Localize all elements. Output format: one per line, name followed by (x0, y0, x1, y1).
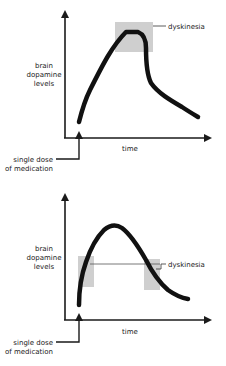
dyskinesia-label: dyskinesia (168, 23, 205, 31)
dose-pointer-line (56, 315, 79, 342)
y-axis-label-line3: levels (34, 80, 55, 88)
y-axis-label-line1: brain (35, 62, 53, 70)
bottom-panel: dyskinesia brain dopamine levels time si… (5, 195, 210, 356)
y-axis-label-line1: brain (35, 245, 53, 253)
dose-label-line2: of medication (5, 165, 53, 173)
dose-label-line1: single dose (13, 339, 53, 347)
dose-label-line2: of medication (5, 348, 53, 356)
y-axis-label-line2: dopamine (27, 71, 62, 79)
dose-label-line1: single dose (13, 156, 53, 164)
x-axis-label: time (122, 328, 138, 336)
top-panel: dyskinesia brain dopamine levels time si… (5, 12, 210, 173)
dyskinesia-label: dyskinesia (168, 261, 205, 269)
dose-pointer-line (56, 133, 79, 159)
diagram-canvas: dyskinesia brain dopamine levels time si… (0, 0, 226, 366)
y-axis-label-line3: levels (34, 263, 55, 271)
x-axis-label: time (122, 145, 138, 153)
y-axis-label-line2: dopamine (27, 254, 62, 262)
